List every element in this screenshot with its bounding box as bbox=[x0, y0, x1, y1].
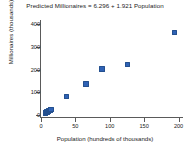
y-axis-tick-label: 0 bbox=[6, 112, 40, 118]
plot-area bbox=[41, 20, 182, 117]
data-point bbox=[83, 81, 88, 86]
chart-title: Predicted Millionaires = 6.296 + 1.921 P… bbox=[0, 2, 190, 10]
x-axis-tick-label: 0 bbox=[26, 123, 56, 129]
data-point bbox=[125, 62, 130, 67]
x-axis-tick bbox=[144, 118, 145, 122]
x-axis-tick bbox=[110, 118, 111, 122]
x-axis-line bbox=[40, 117, 183, 118]
data-point bbox=[64, 94, 69, 99]
scatter-chart-figure: Predicted Millionaires = 6.296 + 1.921 P… bbox=[0, 0, 190, 153]
y-axis-tick-label-wrapper: 0 bbox=[0, 112, 40, 118]
y-axis-label-wrapper: Millionaires (thousands) bbox=[6, 0, 16, 84]
data-point bbox=[172, 30, 177, 35]
y-axis-tick-label-wrapper: 100 bbox=[0, 89, 40, 95]
y-axis-label: Millionaires (thousands) bbox=[6, 0, 16, 84]
data-point bbox=[48, 107, 53, 112]
x-axis-tick-label: 100 bbox=[95, 123, 125, 129]
x-axis-tick bbox=[75, 118, 76, 122]
x-axis-tick-label: 50 bbox=[60, 123, 90, 129]
x-axis-tick-label: 200 bbox=[164, 123, 190, 129]
data-point bbox=[99, 66, 104, 71]
y-axis-tick-label: 100 bbox=[6, 89, 40, 95]
x-axis-tick-label: 150 bbox=[129, 123, 159, 129]
x-axis-tick bbox=[41, 118, 42, 122]
x-axis-tick bbox=[179, 118, 180, 122]
x-axis-label: Population (hundreds of thousands) bbox=[20, 135, 190, 143]
